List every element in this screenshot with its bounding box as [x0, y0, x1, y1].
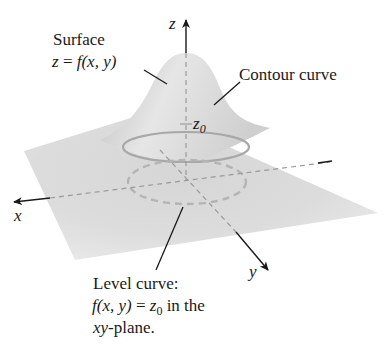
z0-label: z0: [193, 114, 206, 139]
y-axis-label: y: [249, 262, 257, 282]
level-plane-xy: xy: [93, 318, 108, 337]
surface-equation: z = f(x, y): [52, 52, 116, 72]
level-eq-equals: =: [132, 296, 150, 315]
z0-base: z: [193, 114, 200, 133]
x-axis-back: [318, 161, 332, 163]
z-axis-label: z: [169, 14, 176, 34]
surface-eq-z: z: [52, 52, 59, 71]
contour-curve-label: Contour curve: [239, 65, 337, 85]
level-eq-tail: in the: [162, 296, 205, 315]
x-axis: [14, 198, 50, 202]
surface-eq-args: (x, y): [81, 52, 116, 71]
surface-diagram: z x y Surface z = f(x, y) Contour curve …: [0, 0, 384, 348]
z0-subscript: 0: [200, 122, 206, 136]
level-curve-label: Level curve:: [93, 274, 178, 294]
level-plane-tail: -plane.: [108, 318, 155, 337]
level-eq-args: (x, y): [97, 296, 132, 315]
level-curve-plane: xy-plane.: [93, 318, 155, 338]
surface-eq-equals: =: [59, 52, 77, 71]
x-axis-label: x: [14, 206, 22, 226]
surface-label: Surface: [53, 30, 105, 50]
